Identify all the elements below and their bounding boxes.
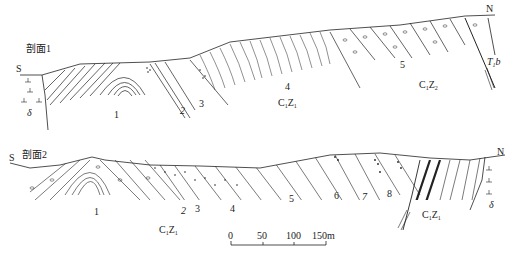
s2-layer-5: 5: [289, 194, 294, 204]
section-1: [20, 15, 495, 130]
section-1-title: 剖面1: [26, 44, 51, 54]
scale-bar: [231, 241, 326, 245]
section-2-intrusion: δ: [489, 200, 494, 210]
section-2-right-dir: N: [497, 147, 504, 157]
s2-layer-4: 4: [230, 204, 235, 214]
s1-layer-3: 3: [199, 99, 204, 109]
unit1-hatch: [45, 63, 120, 105]
section-2-title: 剖面2: [22, 150, 47, 160]
gravel-dots: [154, 156, 402, 186]
section-1-intrusion: δ: [27, 108, 32, 118]
intrusion-symbols: [21, 78, 42, 102]
s2-layer-8: 8: [387, 189, 392, 199]
strata-lines: [20, 154, 480, 215]
intrusion-contact: [42, 75, 48, 130]
s2-layer-7: 7: [362, 192, 367, 202]
scale-tick-50: 50: [257, 231, 267, 241]
s2-layer-2: 2: [181, 206, 186, 216]
s1-right-unit: T1b: [487, 57, 501, 68]
unit5-lines: [330, 19, 465, 88]
s2-formation-1: C1Z1: [159, 225, 178, 236]
s1-formation-2: C1Z2: [419, 80, 438, 91]
intrusion-contact: [470, 157, 485, 210]
s1-layer-1: 1: [114, 110, 119, 120]
s1-formation-1: C1Z1: [278, 98, 297, 109]
s1-layer-2: 2: [180, 106, 185, 116]
scale-tick-0: 0: [228, 231, 233, 241]
s2-formation-2: C1Z1: [422, 210, 441, 221]
pebble-symbols: [343, 24, 477, 53]
gravel-dots: [146, 67, 206, 79]
unit2-3-lines: [150, 60, 228, 118]
scale-tick-150: 150m: [312, 231, 335, 241]
s1-layer-5: 5: [400, 60, 405, 70]
s2-layer-1: 1: [94, 207, 99, 217]
scale-tick-100: 100: [286, 231, 301, 241]
s2-layer-3: 3: [195, 204, 200, 214]
geologic-cross-sections: [0, 0, 516, 261]
unit4-strata: [200, 32, 330, 90]
anticline-folds: [100, 78, 145, 97]
section-1-right-dir: N: [486, 4, 493, 14]
s2-layer-6: 6: [334, 191, 339, 201]
intrusion-symbols: [486, 166, 492, 194]
section-1-left-dir: S: [16, 64, 22, 74]
s1-layer-4: 4: [285, 82, 290, 92]
section-2-left-dir: S: [9, 153, 15, 163]
